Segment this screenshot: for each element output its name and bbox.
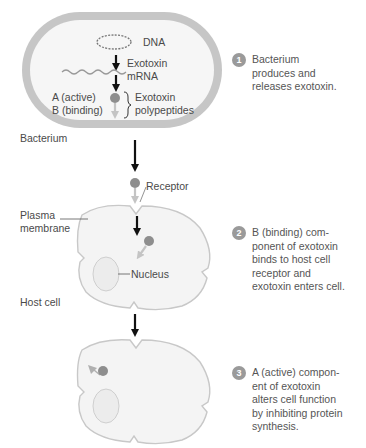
dna-label: DNA: [143, 36, 165, 49]
step-text: A (active) compon- ent of exotoxin alter…: [252, 366, 362, 434]
step-text: B (binding) com- ponent of exotoxin bind…: [252, 226, 362, 294]
step-badge: 1: [232, 53, 246, 67]
b-binding-label: B (binding): [52, 104, 103, 117]
mrna-label: Exotoxin mRNA: [127, 57, 167, 83]
step-badge: 3: [232, 366, 246, 380]
step-2: 2 B (binding) com- ponent of exotoxin bi…: [232, 226, 362, 294]
host-cell-1: [78, 205, 210, 309]
step-badge: 2: [232, 226, 246, 240]
bacterium-label: Bacterium: [20, 132, 67, 145]
step-3: 3 A (active) compon- ent of exotoxin alt…: [232, 366, 362, 434]
nucleus-label: Nucleus: [131, 268, 169, 281]
plasma-membrane-label: Plasma membrane: [20, 209, 70, 235]
toxin-a-dot: [110, 93, 120, 103]
polypeptides-label: Exotoxin polypeptides: [135, 91, 194, 117]
receptor-label: Receptor: [146, 180, 189, 193]
step-1: 1 Bacterium produces and releases exotox…: [232, 53, 362, 94]
a-active-label: A (active): [52, 91, 96, 104]
nucleus-2: [93, 389, 119, 423]
step-text: Bacterium produces and releases exotoxin…: [252, 53, 362, 94]
host-cell-2: [78, 340, 210, 444]
host-cell-label: Host cell: [20, 296, 60, 309]
nucleus-1: [93, 257, 119, 291]
